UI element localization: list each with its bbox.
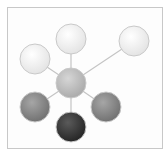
node-hub xyxy=(56,68,86,98)
node-lower-left xyxy=(20,92,50,122)
node-top xyxy=(56,24,86,54)
nodes xyxy=(20,24,149,142)
node-top-right xyxy=(119,26,149,56)
node-lower-right xyxy=(91,92,121,122)
hub-spoke-diagram xyxy=(0,0,167,153)
node-bottom xyxy=(56,112,86,142)
node-upper-left xyxy=(20,44,50,74)
